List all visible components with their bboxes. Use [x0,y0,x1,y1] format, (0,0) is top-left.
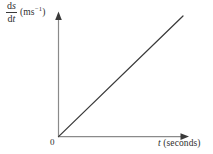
derivative-fraction: ds dt [6,1,17,25]
units-open-text: (ms [20,7,35,17]
y-axis-label: ds dt (ms−1) [6,1,45,25]
units-close-paren: ) [42,7,45,17]
x-axis-label: t(seconds) [158,139,201,149]
y-axis-units: (ms−1) [20,8,46,18]
y-axis-arrow-icon [55,12,62,21]
x-axis-variable: t [158,138,161,148]
origin-label: 0 [50,138,55,147]
x-axis-units: (seconds) [163,138,200,148]
velocity-time-graph-figure: ds dt (ms−1) t(seconds) 0 [0,0,213,154]
fraction-numerator: ds [6,1,17,12]
fraction-denominator: dt [7,14,17,25]
data-line-ds-dt [59,16,184,137]
denominator-variable: t [13,13,16,24]
numerator-variable: s [12,0,16,11]
